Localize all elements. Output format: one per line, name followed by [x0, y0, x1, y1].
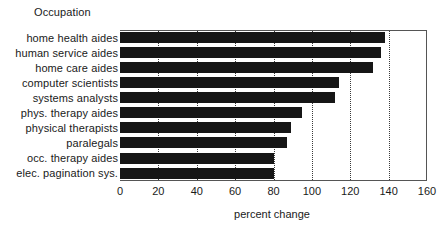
category-row: human service aides: [0, 45, 118, 60]
x-tick-label: 100: [303, 185, 321, 197]
bar: [120, 77, 339, 88]
bar-row: [120, 105, 427, 120]
x-tick-label: 60: [229, 185, 241, 197]
x-tick-label: 80: [267, 185, 279, 197]
category-label: paralegals: [66, 137, 118, 149]
y-axis-title: Occupation: [34, 6, 91, 18]
x-tick-label: 140: [379, 185, 397, 197]
x-tick-label: 160: [418, 185, 436, 197]
bar: [120, 137, 287, 148]
category-label: home health aides: [26, 32, 118, 44]
category-row: phys. therapy aides: [0, 105, 118, 120]
bar: [120, 107, 302, 118]
bar: [120, 168, 274, 179]
category-row: elec. pagination sys.: [0, 166, 118, 181]
bar-chart: Occupation home health aideshuman servic…: [0, 0, 448, 240]
bar: [120, 122, 291, 133]
category-label: human service aides: [15, 47, 118, 59]
bar-row: [120, 30, 427, 45]
category-row: home health aides: [0, 30, 118, 45]
bar: [120, 47, 381, 58]
category-row: paralegals: [0, 136, 118, 151]
bar-row: [120, 151, 427, 166]
x-tick-label: 40: [191, 185, 203, 197]
bar: [120, 92, 335, 103]
x-tick-label: 20: [152, 185, 164, 197]
x-tick-label: 0: [117, 185, 123, 197]
bar: [120, 62, 373, 73]
category-label: elec. pagination sys.: [16, 167, 118, 179]
bar: [120, 32, 385, 43]
category-label: computer scientists: [22, 77, 118, 89]
bar-row: [120, 121, 427, 136]
category-label: occ. therapy aides: [27, 152, 118, 164]
category-label: systems analysts: [33, 92, 118, 104]
bar-row: [120, 166, 427, 181]
category-row: computer scientists: [0, 75, 118, 90]
bar-row: [120, 136, 427, 151]
x-axis-tick-labels: 020406080100120140160: [0, 185, 448, 201]
bar-row: [120, 45, 427, 60]
category-label-list: home health aideshuman service aideshome…: [0, 30, 118, 181]
category-label: physical therapists: [26, 122, 118, 134]
category-row: systems analysts: [0, 90, 118, 105]
x-axis-title: percent change: [0, 208, 448, 220]
category-row: occ. therapy aides: [0, 151, 118, 166]
bar: [120, 153, 274, 164]
x-axis-title-text: percent change: [234, 208, 310, 220]
category-row: physical therapists: [0, 121, 118, 136]
category-row: home care aides: [0, 60, 118, 75]
bar-row: [120, 60, 427, 75]
bars-layer: [120, 30, 427, 181]
category-label: home care aides: [35, 62, 118, 74]
bar-row: [120, 75, 427, 90]
bar-row: [120, 90, 427, 105]
category-label: phys. therapy aides: [21, 107, 118, 119]
x-tick-label: 120: [341, 185, 359, 197]
